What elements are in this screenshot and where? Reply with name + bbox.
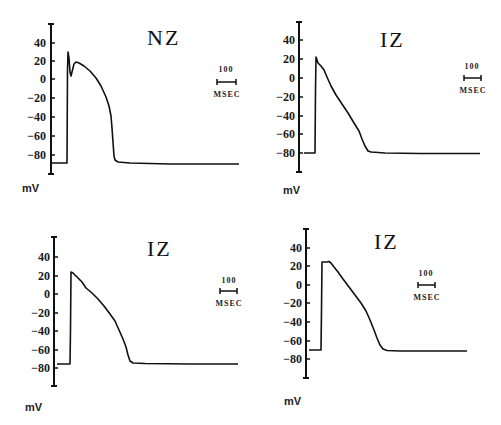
tick-label: −20: [283, 296, 302, 310]
scale-bar-value: 100: [219, 65, 234, 74]
scale-bar-unit: MSEC: [459, 86, 486, 95]
scale-bar: [418, 282, 435, 288]
tick-label: −40: [27, 110, 46, 124]
y-unit-label: mV: [284, 395, 302, 407]
panel-title: IZ: [147, 236, 172, 261]
tick-label: −40: [276, 109, 295, 123]
action-potential-trace: [309, 262, 467, 352]
panel-iz-1: 40 20 0 −20 −40 −60 −80 IZ 100 MSEC mV: [276, 22, 486, 196]
scale-bar: [464, 75, 481, 81]
panel-iz-2: 40 20 0 −20 −40 −60 −80 IZ 100 MSEC mV: [25, 236, 243, 413]
panel-nz: 40 20 0 −20 −40 −60 −80 NZ 100 MSEC mV: [22, 24, 241, 194]
action-potential-trace: [52, 52, 239, 164]
tick-label: −80: [31, 361, 50, 375]
panel-title: IZ: [380, 27, 405, 52]
tick-label: 20: [290, 259, 302, 273]
scale-bar-value: 100: [465, 62, 480, 71]
tick-label: −60: [27, 129, 46, 143]
tick-label: 0: [44, 287, 50, 301]
tick-label: 40: [34, 36, 46, 50]
scale-bar-value: 100: [419, 269, 434, 278]
tick-label: 20: [38, 269, 50, 283]
panel-title: IZ: [374, 229, 399, 254]
tick-label: −60: [31, 343, 50, 357]
scale-bar-value: 100: [222, 276, 237, 285]
y-unit-label: mV: [25, 401, 43, 413]
tick-label: 20: [283, 52, 295, 66]
tick-label: −60: [276, 127, 295, 141]
action-potential-trace: [304, 57, 480, 154]
y-unit-label: mV: [22, 182, 40, 194]
tick-label: −20: [31, 306, 50, 320]
tick-label: −80: [276, 146, 295, 160]
panel-iz-3: 40 20 0 −20 −40 −60 −80 IZ 100 MSEC mV: [283, 229, 467, 407]
figure-canvas: 40 20 0 −20 −40 −60 −80 NZ 100 MSEC mV 4…: [0, 0, 501, 425]
action-potential-trace: [57, 272, 238, 364]
tick-label: −60: [283, 334, 302, 348]
scale-bar-unit: MSEC: [215, 299, 242, 308]
y-unit-label: mV: [283, 184, 301, 196]
tick-label: −40: [283, 315, 302, 329]
tick-label: 20: [34, 54, 46, 68]
tick-label: −20: [276, 90, 295, 104]
tick-label: 40: [38, 250, 50, 264]
tick-label: −40: [31, 324, 50, 338]
tick-label: 40: [290, 241, 302, 255]
tick-label: 0: [289, 71, 295, 85]
tick-label: 0: [296, 278, 302, 292]
scale-bar: [217, 79, 236, 85]
tick-label: −80: [283, 352, 302, 366]
tick-label: 40: [283, 33, 295, 47]
scale-bar: [220, 288, 237, 294]
scale-bar-unit: MSEC: [413, 293, 440, 302]
panel-title: NZ: [147, 25, 180, 50]
tick-label: 0: [40, 72, 46, 86]
tick-label: −20: [27, 91, 46, 105]
scale-bar-unit: MSEC: [213, 90, 240, 99]
tick-label: −80: [27, 148, 46, 162]
